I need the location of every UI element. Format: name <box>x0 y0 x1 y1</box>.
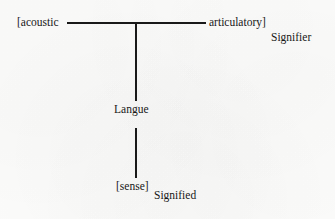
node-label-sense: [sense] <box>116 181 149 193</box>
node-label-acoustic: [acoustic <box>17 17 59 29</box>
annotation-label-signifier: Signifier <box>271 32 311 44</box>
connector-langue-sense <box>135 128 137 178</box>
annotation-label-signified: Signified <box>154 190 196 202</box>
node-label-langue: Langue <box>114 104 148 116</box>
node-label-articulatory: articulatory] <box>209 17 266 29</box>
diagram-canvas: [acoustic articulatory] Langue [sense] S… <box>0 0 335 219</box>
connector-crossbar-langue <box>135 22 137 101</box>
